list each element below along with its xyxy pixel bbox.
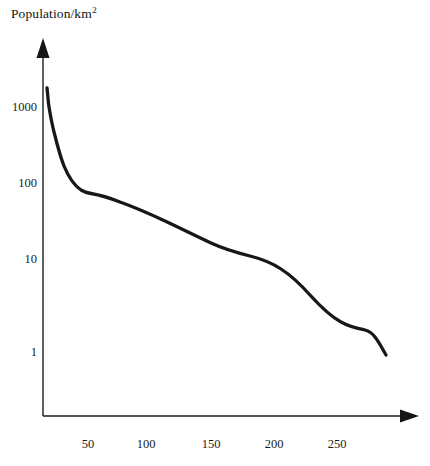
population-density-curve <box>47 88 386 355</box>
x-tick-label-100: 100 <box>137 437 156 451</box>
y-tick-label-10: 10 <box>4 252 37 266</box>
y-tick-label-100: 100 <box>4 176 37 190</box>
y-tick-label-1: 1 <box>4 345 37 359</box>
x-tick-label-250: 250 <box>328 437 347 451</box>
x-tick-label-200: 200 <box>265 437 284 451</box>
plot-area <box>0 0 430 466</box>
x-axis-arrowhead <box>400 410 419 423</box>
x-tick-label-150: 150 <box>202 437 221 451</box>
y-tick-label-1000: 1000 <box>4 100 37 114</box>
chart-root: Population/km2 1000 100 10 1 50 100 150 … <box>0 0 430 466</box>
y-axis-arrowhead <box>37 38 50 58</box>
x-tick-label-50: 50 <box>82 437 95 451</box>
